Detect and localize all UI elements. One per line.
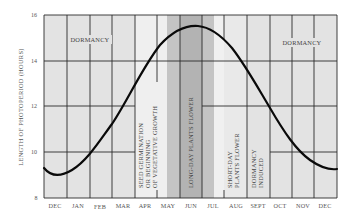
- photoperiod-chart: 16 14 12 10 8 LENGTH OF PHOTOPERIOD (HOU…: [0, 0, 354, 222]
- month-label: JAN: [72, 202, 84, 209]
- y-tick-16: 16: [31, 12, 37, 18]
- svg-text:SHORT-DAY: SHORT-DAY: [226, 151, 233, 188]
- dormancy-left-label: DORMANCY: [71, 36, 110, 43]
- month-label: JUN: [185, 202, 197, 209]
- y-tick-14: 14: [31, 58, 37, 64]
- svg-text:INDUCED: INDUCED: [257, 158, 264, 188]
- month-label: AUG: [229, 202, 243, 209]
- month-label: NOV: [296, 202, 310, 209]
- x-axis-months: DEC JAN FEB MAR APR MAY JUN JUL AUG SEPT…: [49, 202, 332, 210]
- svg-text:OR BEGINNING: OR BEGINNING: [144, 139, 151, 188]
- month-label: APR: [139, 202, 152, 209]
- long-day-annotation: LONG-DAY PLANTS FLOWER: [187, 97, 194, 188]
- y-tick-8: 8: [35, 195, 38, 201]
- y-tick-12: 12: [31, 103, 37, 109]
- y-axis-label: LENGTH OF PHOTOPERIOD (HOURS): [17, 48, 25, 165]
- month-label: MAY: [161, 202, 176, 209]
- y-tick-10: 10: [31, 149, 37, 155]
- band-short-day: [214, 15, 224, 198]
- svg-text:SEED GERMINATION: SEED GERMINATION: [137, 123, 144, 188]
- month-label: DEC: [49, 202, 62, 209]
- month-label: JUL: [207, 202, 218, 209]
- month-label: SEPT: [250, 202, 265, 209]
- dormancy-right-label: DORMANCY: [283, 39, 322, 46]
- month-label: DEC: [319, 202, 332, 209]
- month-label: FEB: [94, 203, 106, 210]
- svg-text:OF VEGETATIVE GROWTH: OF VEGETATIVE GROWTH: [151, 106, 158, 188]
- month-label: MAR: [116, 202, 131, 209]
- svg-text:PLANTS FLOWER: PLANTS FLOWER: [233, 133, 240, 188]
- svg-text:DORMANCY: DORMANCY: [250, 149, 257, 188]
- month-label: OCT: [274, 202, 287, 209]
